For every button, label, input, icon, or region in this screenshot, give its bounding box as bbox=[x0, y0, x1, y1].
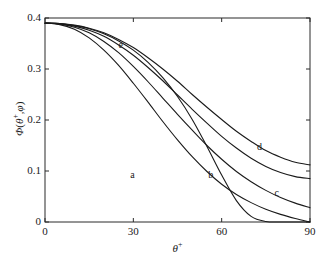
plot-canvas bbox=[0, 0, 328, 260]
axes-border bbox=[45, 18, 310, 222]
curve-d bbox=[45, 23, 310, 165]
y-tick-label: 0.4 bbox=[27, 11, 41, 23]
curve-c bbox=[45, 23, 310, 179]
y-tick-label: 0.1 bbox=[27, 164, 41, 176]
y-tick-label: 0.3 bbox=[27, 62, 41, 74]
x-tick-label: 0 bbox=[25, 225, 65, 237]
x-tick-label: 90 bbox=[290, 225, 328, 237]
x-axis-label: θ+ bbox=[158, 240, 198, 254]
curve-label-c: c bbox=[275, 187, 279, 198]
axis-ticks bbox=[45, 18, 310, 222]
curve-label-b: b bbox=[208, 169, 213, 180]
x-tick-label: 30 bbox=[113, 225, 153, 237]
axes-frame bbox=[45, 18, 310, 222]
curve-label-d: d bbox=[257, 141, 262, 152]
y-tick-label: 0.2 bbox=[27, 113, 41, 125]
chart-figure: Φ(θ+,φ) θ+ 00.10.20.30.4 0306090 abcde bbox=[0, 0, 328, 260]
curve-label-a: a bbox=[130, 169, 134, 180]
x-tick-label: 60 bbox=[202, 225, 242, 237]
curve-b bbox=[45, 23, 310, 208]
y-axis-label: Φ(θ+,φ) bbox=[11, 89, 25, 149]
data-curves bbox=[45, 23, 310, 222]
curve-label-e: e bbox=[119, 39, 123, 50]
